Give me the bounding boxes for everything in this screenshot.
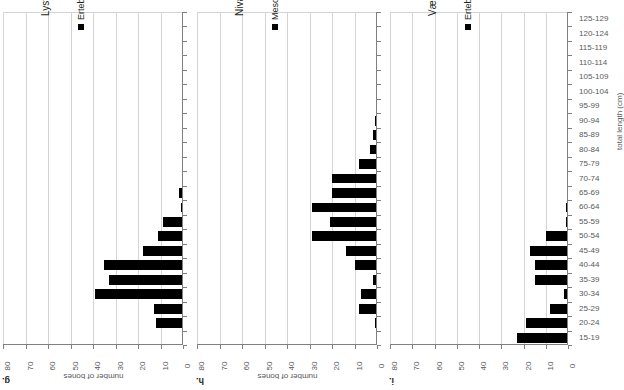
legend-g: Ertebølle culture xyxy=(76,0,86,30)
category-axis-labels: 125-129120-124115-119110-114105-109100-1… xyxy=(579,12,623,345)
category-tick xyxy=(377,142,381,143)
category-tick xyxy=(377,316,381,317)
bar-series-i xyxy=(390,12,568,345)
category-tick xyxy=(183,55,187,56)
category-tick xyxy=(183,345,187,346)
category-tick xyxy=(183,244,187,245)
chart-panel-g: 80706050403020100 Lystrug Enge, n = 171 … xyxy=(0,0,200,390)
bar xyxy=(332,174,377,184)
category-tick xyxy=(377,70,381,71)
bar xyxy=(109,275,183,285)
bar xyxy=(156,318,183,328)
category-label: 95-99 xyxy=(579,102,599,110)
category-tick xyxy=(377,200,381,201)
category-label: 105-109 xyxy=(579,73,608,81)
value-tick xyxy=(332,345,333,349)
panel-letter-h: h. xyxy=(196,376,204,386)
category-tick xyxy=(377,215,381,216)
panel-letter-g: g. xyxy=(2,376,10,386)
value-tick xyxy=(355,345,356,349)
legend-i: Ertebølle culture xyxy=(463,0,473,30)
category-tick xyxy=(377,186,381,187)
legend-label-h: Mesolithic xyxy=(270,0,280,20)
bar xyxy=(346,246,378,256)
category-label: 50-54 xyxy=(579,232,599,240)
bar xyxy=(530,246,568,256)
category-label: 20-24 xyxy=(579,319,599,327)
category-tick xyxy=(183,113,187,114)
bar xyxy=(154,304,183,314)
value-tick-label: 0 xyxy=(183,353,192,379)
value-tick-label: 0 xyxy=(377,353,386,379)
category-tick xyxy=(377,113,381,114)
category-tick xyxy=(183,302,187,303)
bar xyxy=(143,246,184,256)
category-tick xyxy=(183,200,187,201)
value-tick xyxy=(501,345,502,349)
category-tick xyxy=(183,84,187,85)
category-tick xyxy=(568,142,572,143)
value-axis-title-h: number of bones xyxy=(240,372,335,381)
plot-area-i: 80706050403020100 xyxy=(390,12,568,345)
category-label: 125-129 xyxy=(579,15,608,23)
category-tick xyxy=(568,26,572,27)
category-tick xyxy=(568,84,572,85)
category-tick xyxy=(183,273,187,274)
category-tick xyxy=(377,258,381,259)
category-label: 70-74 xyxy=(579,175,599,183)
category-tick xyxy=(183,12,187,13)
value-tick xyxy=(116,345,117,349)
value-tick-label: 0 xyxy=(568,353,577,379)
category-tick xyxy=(183,157,187,158)
category-tick xyxy=(377,171,381,172)
category-tick xyxy=(183,186,187,187)
category-tick xyxy=(568,12,572,13)
category-tick xyxy=(568,215,572,216)
bar xyxy=(550,304,568,314)
bar xyxy=(359,304,377,314)
category-tick xyxy=(568,200,572,201)
category-tick xyxy=(377,157,381,158)
category-label: 55-59 xyxy=(579,218,599,226)
category-tick xyxy=(377,128,381,129)
category-label: 60-64 xyxy=(579,203,599,211)
category-tick xyxy=(183,41,187,42)
category-label: 75-79 xyxy=(579,160,599,168)
category-tick xyxy=(183,142,187,143)
category-label: 115-119 xyxy=(579,44,607,52)
chart-title-g: Lystrug Enge, n = 171 xyxy=(40,0,51,16)
category-label: 120-124 xyxy=(579,30,608,38)
category-tick xyxy=(568,287,572,288)
category-tick xyxy=(568,331,572,332)
category-tick xyxy=(183,215,187,216)
value-axis-ticks-g xyxy=(3,345,183,349)
category-tick xyxy=(377,41,381,42)
category-tick xyxy=(183,26,187,27)
value-tick xyxy=(265,345,266,349)
chart-title-i: Vængsø III, n = 110 xyxy=(427,0,438,16)
value-tick-label: 70 xyxy=(220,353,229,379)
category-label: 30-34 xyxy=(579,290,599,298)
category-tick xyxy=(183,331,187,332)
category-tick xyxy=(377,229,381,230)
category-tick xyxy=(183,70,187,71)
category-tick xyxy=(183,171,187,172)
category-tick xyxy=(568,113,572,114)
category-axis-ticks-g xyxy=(183,12,187,345)
category-tick xyxy=(568,171,572,172)
category-tick xyxy=(377,273,381,274)
category-axis-ticks-h xyxy=(377,12,381,345)
bar xyxy=(535,275,568,285)
bar xyxy=(535,260,568,270)
plot-area-g: 80706050403020100 xyxy=(3,12,183,345)
category-axis-ticks-i xyxy=(568,12,572,345)
category-tick xyxy=(183,287,187,288)
bar-series-g xyxy=(3,12,183,345)
value-tick xyxy=(48,345,49,349)
bar xyxy=(526,318,568,328)
value-tick xyxy=(546,345,547,349)
bar xyxy=(517,333,568,343)
bar xyxy=(95,289,183,299)
category-tick xyxy=(377,287,381,288)
value-tick xyxy=(138,345,139,349)
